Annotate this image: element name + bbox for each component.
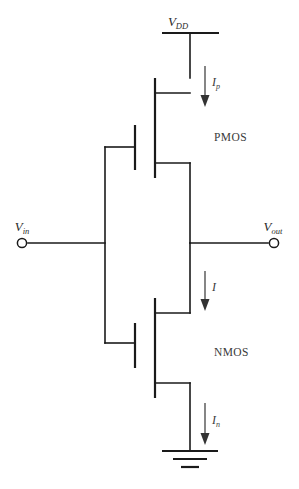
- nmos-label: NMOS: [214, 346, 249, 358]
- current-in-arrowhead: [201, 433, 210, 445]
- vout-label: Vout: [264, 219, 283, 236]
- current-ip-group: [201, 66, 210, 107]
- current-i-arrowhead: [201, 299, 210, 311]
- vout-group[interactable]: [190, 238, 279, 247]
- current-ip-label: Ip: [211, 75, 220, 91]
- vout-terminal[interactable]: [269, 238, 278, 247]
- vin-group[interactable]: [17, 238, 105, 247]
- pmos-transistor: [105, 78, 190, 178]
- vin-label: Vin: [15, 219, 30, 236]
- current-i-group: [201, 271, 210, 311]
- pmos-label: PMOS: [214, 131, 247, 143]
- current-i-label: I: [211, 280, 217, 294]
- nmos-transistor: [105, 298, 190, 398]
- vdd-rail-group: [162, 33, 219, 78]
- current-in-label: In: [211, 413, 220, 429]
- vin-terminal[interactable]: [17, 238, 26, 247]
- vdd-label: VDD: [168, 14, 189, 31]
- ground-symbol: [162, 451, 218, 467]
- current-ip-arrowhead: [201, 95, 210, 107]
- cmos-inverter-schematic: VDD Ip PMOS Vin Vout: [0, 0, 299, 489]
- current-in-group: [201, 403, 210, 445]
